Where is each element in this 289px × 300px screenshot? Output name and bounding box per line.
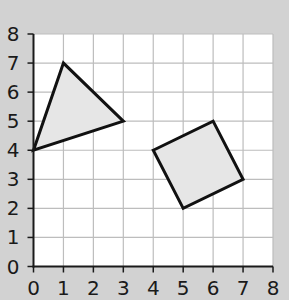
x-tick-label: 4 xyxy=(147,276,160,300)
x-tick-label: 5 xyxy=(177,276,190,300)
y-tick-label: 4 xyxy=(7,138,20,162)
y-tick-label: 2 xyxy=(7,196,20,220)
y-tick-label: 6 xyxy=(7,80,20,104)
x-tick-label: 1 xyxy=(57,276,70,300)
x-tick-label: 8 xyxy=(267,276,280,300)
x-tick-label: 6 xyxy=(207,276,220,300)
x-tick-label: 7 xyxy=(237,276,250,300)
y-tick-label: 7 xyxy=(7,51,20,75)
y-tick-labels: 012345678 xyxy=(7,22,20,279)
x-tick-labels: 012345678 xyxy=(27,276,279,300)
y-tick-label: 0 xyxy=(7,255,20,279)
y-tick-label: 5 xyxy=(7,109,20,133)
y-tick-label: 3 xyxy=(7,167,20,191)
x-tick-label: 2 xyxy=(87,276,100,300)
coordinate-grid-chart: 012345678 012345678 xyxy=(0,0,289,300)
y-tick-label: 8 xyxy=(7,22,20,46)
y-tick-label: 1 xyxy=(7,225,20,249)
x-tick-label: 0 xyxy=(27,276,40,300)
x-tick-label: 3 xyxy=(117,276,130,300)
